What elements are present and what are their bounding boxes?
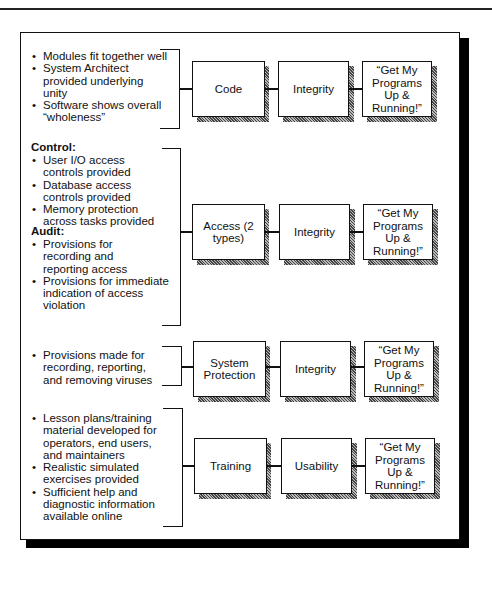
goal-box: “Get My Programs Up & Running!” [364, 341, 434, 397]
goal-box: “Get My Programs Up & Running!” [365, 438, 435, 494]
connector-line [181, 231, 192, 233]
code-box: Code [192, 61, 265, 117]
connector-line [266, 366, 280, 368]
connector-line [180, 88, 192, 90]
connector-line [352, 465, 365, 467]
connector-line [350, 231, 363, 233]
bullet-item: Sufficient help and diagnostic informati… [31, 486, 168, 523]
usability-box: Usability [281, 438, 352, 494]
access-bracket [162, 148, 181, 326]
goal-box: “Get My Programs Up & Running!” [363, 204, 433, 260]
bullet-item: Provisions for recording and reporting a… [31, 238, 143, 275]
connector-line [183, 465, 194, 467]
integrity-box: Integrity [278, 61, 349, 117]
bullet-item: System Architect provided underlying uni… [31, 62, 168, 99]
connector-line [351, 366, 364, 368]
bullet-item: Provisions for immediate indication of a… [31, 275, 173, 312]
page-header-rule [0, 8, 492, 10]
audit-bullet-list: Provisions for recording and reporting a… [31, 238, 171, 312]
bullet-item: Realistic simulated exercises provided [31, 461, 143, 486]
control-bullet-list: User I/O access controls provided Databa… [31, 154, 161, 228]
goal-box: “Get My Programs Up & Running!” [362, 61, 432, 117]
connector-line [267, 465, 281, 467]
bullet-item: Lesson plans/training material developed… [31, 412, 168, 461]
bullet-item: Provisions made for recording, reporting… [31, 349, 168, 386]
integrity-box: Integrity [280, 341, 351, 397]
access-box: Access (2 types) [192, 204, 265, 260]
system-protection-bracket [162, 346, 182, 386]
connector-line [265, 88, 278, 90]
training-box: Training [194, 438, 267, 494]
control-heading: Control: [31, 141, 76, 154]
system-protection-box: System Protection [193, 341, 266, 397]
bullet-item: Database access controls provided [31, 179, 153, 204]
connector-line [182, 366, 193, 368]
virus-bullet-list: Provisions made for recording, reporting… [31, 349, 171, 386]
connector-line [349, 88, 362, 90]
training-bracket [163, 408, 183, 527]
code-bullet-list: Modules fit together well System Archite… [31, 50, 181, 124]
code-bracket [160, 49, 180, 129]
bullet-item: User I/O access controls provided [31, 154, 153, 179]
integrity-box: Integrity [279, 204, 350, 260]
audit-heading: Audit: [31, 225, 64, 238]
connector-line [265, 231, 279, 233]
training-bullet-list: Lesson plans/training material developed… [31, 412, 171, 523]
bullet-item: Software shows overall “wholeness” [31, 99, 163, 124]
